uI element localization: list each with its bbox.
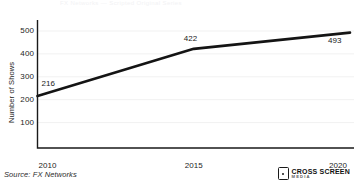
logo-wordmark: CROSS SCREEN MEDIA [292, 168, 350, 180]
chart-figure: FX Networks — Scripted Original Series N… [0, 0, 354, 183]
cropped-title-ghost: FX Networks — Scripted Original Series [60, 0, 310, 7]
y-axis-tick-labels: 100200300400500 [8, 10, 34, 155]
logo-secondary-text: MEDIA [292, 175, 350, 179]
y-tick-label: 100 [8, 118, 34, 127]
y-tick-label: 300 [8, 72, 34, 81]
gridlines [38, 31, 354, 123]
data-point-label: 422 [184, 34, 198, 43]
y-tick-label: 400 [8, 49, 34, 58]
data-point-label: 493 [328, 36, 342, 45]
screen-device-icon [278, 167, 289, 180]
y-tick-label: 500 [8, 26, 34, 35]
cross-screen-media-logo: CROSS SCREEN MEDIA [278, 167, 350, 180]
data-point-label: 216 [42, 79, 56, 88]
chart-footer: Source: FX Networks CROSS SCREEN MEDIA [0, 168, 354, 183]
plot-area: Number of Shows 100200300400500 20102015… [0, 10, 354, 155]
y-tick-label: 200 [8, 95, 34, 104]
source-note: Source: FX Networks [4, 170, 77, 179]
